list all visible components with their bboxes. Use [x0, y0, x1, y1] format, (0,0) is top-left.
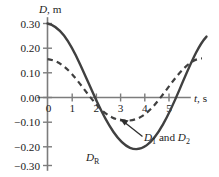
y-ticklabel--0.10: −0.10 [14, 116, 40, 128]
y-axis-title-symbol: D [38, 3, 47, 15]
displacement-vs-time-chart: D, m 0.30 0.20 0.10 0.00 −0.10 −0.20 −0.… [0, 0, 219, 177]
x-axis-title-unit: , s [197, 92, 207, 104]
x-ticklabel-3: 3 [118, 102, 124, 114]
y-ticklabel-0.00: 0.00 [20, 92, 40, 104]
y-axis-title-unit: , m [47, 3, 62, 15]
x-axis-title: t, s [194, 92, 207, 104]
y-ticklabel--0.20: −0.20 [14, 141, 40, 153]
y-ticklabel-0.20: 0.20 [20, 42, 40, 54]
x-ticklabel-0: 0 [46, 102, 52, 114]
curve-label-dr: DR [85, 151, 100, 166]
x-ticklabel-1: 1 [69, 102, 75, 114]
y-axis-title: D, m [38, 3, 62, 15]
y-ticklabel--0.30: −0.30 [14, 160, 40, 172]
y-ticklabel-0.30: 0.30 [20, 18, 40, 30]
leader-line-d1-d2 [124, 122, 143, 137]
y-ticklabel-0.10: 0.10 [20, 67, 40, 79]
